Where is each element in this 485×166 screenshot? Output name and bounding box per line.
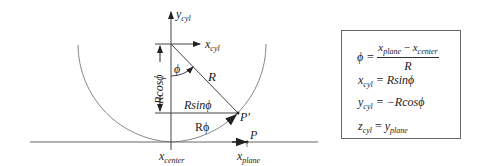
point-p-label: P (249, 128, 258, 142)
x-plane-label: xplane (236, 149, 261, 165)
arc-arrow (228, 115, 236, 122)
zcyl-equation: zcyl = yplane (358, 119, 476, 135)
arc-length-label: Rϕ (195, 120, 209, 134)
phi-lhs: ϕ = (357, 50, 374, 64)
cylinder-arc (78, 44, 266, 142)
phi-equation: ϕ = xplane − xcenter R (357, 41, 475, 74)
point-p-prime-label: P' (239, 110, 250, 124)
equations-box: ϕ = xplane − xcenter R xcyl = Rsinϕ ycyl… (341, 30, 461, 139)
angle-label: ϕ (174, 62, 180, 76)
phi-fraction: xplane − xcenter R (377, 41, 438, 74)
phi-denominator: R (377, 58, 438, 74)
x-cyl-label: xcyl (204, 37, 220, 53)
x-center-label: xcenter (158, 149, 185, 165)
radius-label: R (207, 69, 216, 84)
phi-numerator: xplane − xcenter (377, 41, 438, 58)
rcos-label: Rcosϕ (152, 74, 166, 105)
xcyl-equation: xcyl = Rsinϕ (358, 73, 476, 89)
ycyl-equation: ycyl = −Rcosϕ (358, 95, 476, 111)
rsin-label: Rsinϕ (183, 98, 212, 112)
y-cyl-label: ycyl (175, 7, 191, 23)
